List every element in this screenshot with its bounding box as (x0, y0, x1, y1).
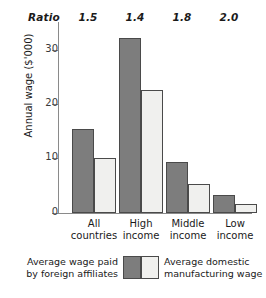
legend-swatch-domestic-manufacturing (141, 256, 159, 279)
y-tick-0: 0 (0, 213, 58, 214)
chart-legend: Average wage paid by foreign affiliates … (0, 256, 266, 286)
legend-label-line1: Average wage paid (10, 256, 118, 268)
x-label-line2: income (195, 230, 266, 242)
legend-label-domestic-manufacturing: Average domestic manufacturing wage (164, 256, 266, 279)
legend-swatch-foreign-affiliates (123, 256, 141, 279)
y-tick-30: 30 (0, 50, 58, 51)
legend-label-line2: by foreign affiliates (10, 268, 118, 280)
bar-domestic-middle-income (188, 184, 210, 213)
y-axis-title: Annual wage ($'000) (23, 6, 34, 166)
x-label-line1: Low (195, 218, 266, 230)
bar-domestic-all-countries (94, 158, 116, 213)
legend-label-foreign-affiliates: Average wage paid by foreign affiliates (10, 256, 118, 279)
legend-label-line1: Average domestic (164, 256, 266, 268)
y-tick-10: 10 (0, 158, 58, 159)
plot-area (58, 22, 252, 213)
x-label-low-income: Low income (195, 218, 266, 241)
y-tick-label-10: 10 (12, 151, 58, 162)
bar-foreign-middle-income (166, 162, 188, 213)
y-tick-label-0: 0 (12, 206, 58, 217)
bar-foreign-low-income (213, 195, 235, 213)
y-tick-20: 20 (0, 104, 58, 105)
bar-domestic-low-income (235, 204, 257, 213)
x-axis-line (58, 213, 252, 214)
bar-foreign-all-countries (72, 129, 94, 213)
bar-foreign-high-income (119, 38, 141, 213)
y-tick-label-30: 30 (12, 43, 58, 54)
y-tick-label-20: 20 (12, 97, 58, 108)
bar-chart-figure: Ratio 1.5 1.4 1.8 2.0 Annual wage ($'000… (0, 0, 266, 298)
bar-domestic-high-income (141, 90, 163, 213)
legend-swatch-pair (123, 256, 159, 279)
legend-label-line2: manufacturing wage (164, 268, 266, 280)
